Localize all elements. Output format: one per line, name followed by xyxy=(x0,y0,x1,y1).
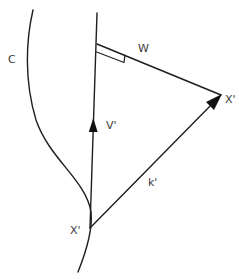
label-k: k' xyxy=(148,176,157,189)
label-v: V' xyxy=(106,119,117,132)
curve-c xyxy=(27,10,91,272)
label-x-curve: X' xyxy=(70,224,81,237)
label-x-far: X' xyxy=(225,93,236,106)
vector-geometry-diagram: C W V' X' k' X' xyxy=(0,0,239,279)
arrowhead-up-icon xyxy=(89,118,98,132)
label-c: C xyxy=(8,53,16,66)
label-w: W xyxy=(138,42,149,55)
line-w xyxy=(97,44,221,95)
